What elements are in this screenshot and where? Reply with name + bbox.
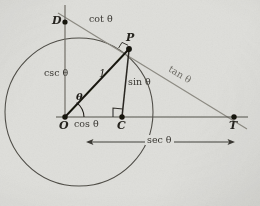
- angle-label-theta: θ: [76, 92, 83, 102]
- point-label-T: T: [229, 120, 237, 131]
- segment-label-one: 1: [99, 68, 106, 79]
- point-label-C: C: [117, 120, 126, 131]
- point-label-P: P: [126, 32, 134, 43]
- segment-label-sin: sin θ: [128, 77, 151, 87]
- segment-label-sec: sec θ: [145, 135, 174, 145]
- segment-label-csc: csc θ: [44, 68, 68, 78]
- point-label-O: O: [59, 120, 69, 131]
- point-label-D: D: [52, 15, 62, 26]
- trig-diagram-figure: D P O C T cot θ csc θ 1 sin θ tan θ cos …: [0, 0, 260, 206]
- segment-label-cos: cos θ: [74, 119, 99, 129]
- point-dot-D: [62, 19, 67, 24]
- segment-label-cot: cot θ: [89, 14, 113, 24]
- point-dot-P: [126, 46, 132, 52]
